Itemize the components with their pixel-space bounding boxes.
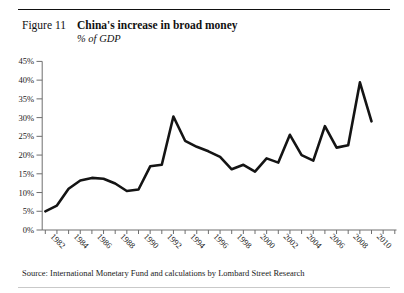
x-tick-label: 1996	[212, 231, 231, 250]
y-tick-label: 15%	[18, 169, 34, 179]
x-tick-label: 1982	[49, 231, 68, 250]
y-tick-label: 5%	[23, 206, 34, 216]
y-tick-label: 10%	[18, 188, 34, 198]
x-tick-label: 1990	[142, 231, 161, 250]
x-tick-label: 1994	[188, 231, 208, 251]
x-tick-label: 1988	[118, 231, 137, 250]
data-series-line	[45, 82, 371, 211]
y-tick-label: 35%	[18, 94, 34, 104]
x-tick-label: 1984	[72, 231, 92, 251]
x-tick-label: 2004	[305, 231, 325, 251]
x-tick-label: 2000	[258, 231, 277, 250]
y-tick-label: 25%	[18, 131, 34, 141]
y-tick-label: 0%	[23, 225, 34, 235]
x-tick-label: 2006	[328, 231, 347, 250]
chart-canvas: 0%5%10%15%20%25%30%35%40%45%198219841986…	[0, 0, 404, 293]
x-tick-label: 2008	[351, 231, 370, 250]
figure-page: Figure 11 China's increase in broad mone…	[0, 0, 404, 293]
x-tick-label: 1986	[95, 231, 114, 250]
x-tick-label: 2010	[375, 231, 394, 250]
bottom-rule	[18, 287, 390, 288]
x-tick-label: 2002	[282, 231, 301, 250]
y-tick-label: 30%	[18, 113, 34, 123]
source-text: Source: International Monetary Fund and …	[22, 268, 305, 278]
y-tick-label: 45%	[18, 56, 34, 66]
y-tick-label: 20%	[18, 150, 34, 160]
x-tick-label: 1998	[235, 231, 254, 250]
y-tick-label: 40%	[18, 75, 34, 85]
x-tick-label: 1992	[165, 231, 184, 250]
